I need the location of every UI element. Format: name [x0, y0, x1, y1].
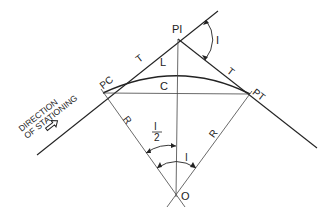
radius-left-label: R [121, 114, 134, 126]
chord-label: C [160, 80, 168, 92]
direction-of-stationing: DIRECTION OF STATIONING [17, 86, 80, 141]
o-label: O [181, 190, 190, 202]
pi-label: PI [172, 23, 182, 35]
deflection-angle-arc [205, 20, 213, 60]
arc-length-label: L [160, 56, 166, 68]
bisector-line [176, 39, 178, 197]
tangent-left-label: T [134, 52, 146, 64]
central-angle-label: I [185, 152, 188, 163]
deflection-angle-label: I [216, 34, 219, 46]
half-angle-denominator: 2 [154, 132, 160, 143]
chord-line [103, 93, 250, 94]
tangent-right-label: T [225, 65, 237, 77]
arrowhead-icon [146, 148, 151, 153]
arrowhead-icon [202, 55, 208, 60]
radius-left-line [101, 89, 185, 207]
curve-diagram: PI PC PT O T T L C R R I I I 2 DIRECTION… [0, 0, 327, 220]
half-angle-numerator: I [154, 121, 157, 132]
pt-label: PT [251, 86, 268, 103]
radius-right-line [167, 91, 252, 207]
